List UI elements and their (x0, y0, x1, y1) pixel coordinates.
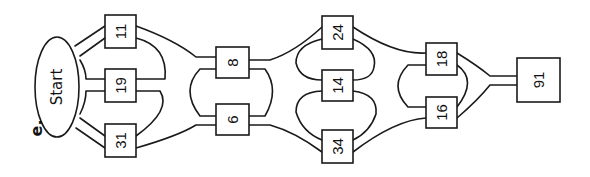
node-label-91: 91 (530, 72, 547, 89)
node-label-6: 6 (224, 115, 241, 123)
corridor-14-34-right-loop (353, 91, 376, 140)
node-24: 24 (322, 16, 353, 49)
corridor-18-16-right-wall (457, 65, 468, 107)
corridor-18-16-left-loop (398, 65, 426, 107)
node-31: 31 (105, 124, 136, 157)
corridor-11-8-outer (136, 26, 216, 57)
corridor-8-6-left-loop (190, 69, 216, 116)
corridor-start-19-bottom (80, 91, 105, 114)
node-8: 8 (216, 47, 249, 78)
node-label-34: 34 (329, 138, 346, 155)
node-6: 6 (216, 104, 249, 135)
start-label: Start (48, 69, 66, 106)
corridor-14-34-left-loop (296, 91, 322, 140)
node-19: 19 (105, 69, 136, 102)
corridor-start-31-outer (76, 128, 105, 148)
node-label-11: 11 (112, 24, 129, 40)
corridor-6-34 (249, 125, 322, 152)
corridor-24-18 (353, 27, 426, 53)
node-label-16: 16 (433, 104, 450, 121)
corridor-8-6-right-loop (249, 69, 273, 116)
node-label-19: 19 (112, 77, 129, 94)
node-11: 11 (105, 15, 136, 48)
maze-diagram: Start 11 19 31 8 6 24 14 34 18 16 (0, 0, 590, 177)
corridor-11-19-loop (136, 38, 165, 79)
corridor-8-24 (249, 27, 322, 60)
node-91: 91 (517, 58, 560, 102)
corridor-31-6-outer (136, 125, 216, 148)
node-16: 16 (426, 97, 457, 128)
corridor-start-19-top (80, 60, 105, 79)
node-18: 18 (426, 43, 457, 75)
corridor-start-11-outer (75, 26, 105, 46)
corridor-18-91 (457, 53, 517, 76)
node-14: 14 (322, 70, 353, 101)
corridor-24-14-right-loop (353, 39, 375, 80)
corridor-34-16 (353, 118, 426, 152)
corridor-19-31-loop (136, 91, 163, 136)
node-label-31: 31 (112, 132, 129, 149)
node-label-24: 24 (329, 24, 346, 41)
node-34: 34 (322, 130, 353, 163)
node-label-14: 14 (329, 77, 346, 94)
figure-label: e. (27, 120, 46, 137)
node-label-8: 8 (224, 58, 241, 66)
node-label-18: 18 (433, 51, 450, 68)
